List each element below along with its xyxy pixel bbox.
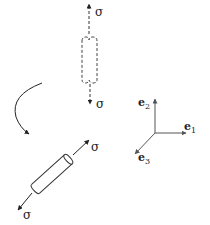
solid-cylinder (30, 153, 74, 195)
top-sigma-label: σ (95, 5, 103, 19)
vertical-fiber: σ σ (82, 4, 104, 111)
upper-sigma-label: σ (91, 140, 99, 154)
e3-label: e3 (138, 151, 150, 166)
upper-load-arrow (73, 140, 89, 155)
bottom-sigma-label: σ (96, 97, 104, 111)
lower-sigma-label: σ (23, 208, 31, 222)
e1-label: e1 (184, 120, 196, 135)
rotated-fiber: σ σ (18, 140, 99, 222)
rotation-arrow-icon (15, 83, 42, 134)
e2-label: e2 (138, 96, 150, 111)
dashed-cylinder (82, 37, 97, 83)
fiber-rotation-diagram: σ σ σ σ e2 e1 e3 (0, 0, 210, 225)
basis-axes: e2 e1 e3 (135, 96, 196, 166)
